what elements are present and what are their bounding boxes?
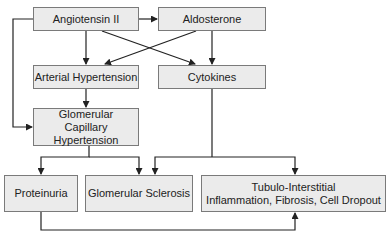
node-label: Arterial Hypertension [35,71,138,84]
node-angiotensin-ii: Angiotensin II [33,7,139,31]
node-label: Glomerular Capillary Hypertension [40,108,132,147]
node-tubulo-interstitial: Tubulo-Interstitial Inflammation, Fibros… [201,175,386,212]
node-cytokines: Cytokines [158,65,266,89]
node-arterial-hypertension: Arterial Hypertension [33,65,139,89]
node-proteinuria: Proteinuria [4,175,78,212]
node-glomerular-sclerosis: Glomerular Sclerosis [85,175,193,212]
node-aldosterone: Aldosterone [158,7,266,31]
node-label: Proteinuria [14,187,67,200]
node-label-line1: Tubulo-Interstitial [252,181,336,194]
node-label: Angiotensin II [53,13,120,26]
node-label-line2: Inflammation, Fibrosis, Cell Dropout [206,194,381,207]
node-label: Glomerular Sclerosis [88,187,190,200]
node-label: Cytokines [188,71,236,84]
node-label: Aldosterone [183,13,242,26]
node-glomerular-capillary-hypertension: Glomerular Capillary Hypertension [33,108,139,146]
